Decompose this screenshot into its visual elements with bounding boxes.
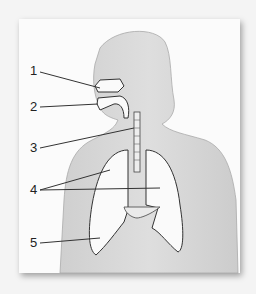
label-2: 2 xyxy=(30,100,37,113)
respiratory-diagram xyxy=(0,0,256,294)
trachea xyxy=(134,112,140,172)
nasal-cavity xyxy=(95,79,124,92)
label-1: 1 xyxy=(30,64,37,77)
label-3: 3 xyxy=(30,141,37,154)
label-5: 5 xyxy=(30,236,37,249)
label-4: 4 xyxy=(30,183,37,196)
